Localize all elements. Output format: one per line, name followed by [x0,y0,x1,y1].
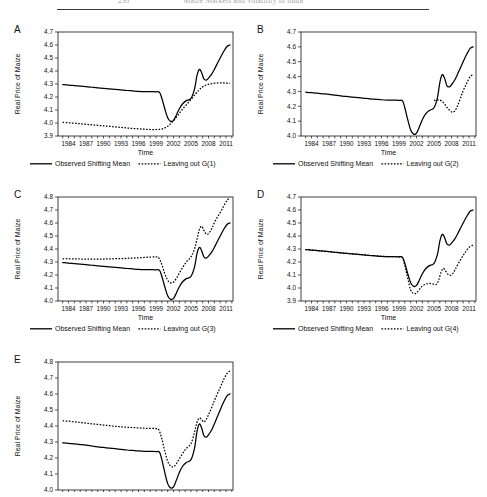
x-tick-label: 2005 [427,140,442,147]
y-tick-label: 4.5 [44,232,53,239]
x-axis-title: Time [138,314,153,321]
y-axis-title: Real Price of Maize [14,219,21,280]
y-axis-title: Real Price of Maize [14,396,21,457]
x-tick-label: 1993 [114,305,129,312]
series-line-1 [63,223,230,300]
chart-panel-e: E 4.04.14.24.34.44.54.64.74.8Real Price … [0,352,243,497]
series-line-1 [63,45,230,122]
legend-entry-2: Leaving out G(2) [382,160,459,168]
x-tick-label: 2008 [201,305,216,312]
legend-entry-1: Observed Shifting Mean [273,325,373,333]
x-tick-label: 1987 [79,140,94,147]
legend-label: Leaving out G(2) [407,160,459,168]
y-tick-label: 4.4 [44,422,53,429]
panel-a-svg: 3.94.04.14.24.34.44.54.64.71984198719901… [0,22,243,187]
y-tick-label: 4.3 [44,438,53,445]
x-tick-label: 1987 [79,305,94,312]
x-tick-label: 1993 [357,305,372,312]
x-tick-label: 2011 [462,140,476,147]
x-tick-label: 2005 [427,305,442,312]
legend-label: Leaving out G(4) [407,325,459,333]
legend-entry-1: Observed Shifting Mean [30,325,130,333]
chart-panel-b: B 4.04.14.24.34.44.54.64.719841987199019… [243,22,486,187]
series-group [63,371,230,488]
x-tick-label: 1999 [149,140,164,147]
x-tick-label: 1990 [339,140,354,147]
chart-panel-d: D 3.94.04.14.24.34.44.54.64.719841987199… [243,187,486,352]
x-tick-label: 1987 [322,140,337,147]
y-tick-label: 4.4 [287,232,296,239]
x-tick-label: 1996 [374,305,389,312]
series-line-1 [306,47,473,134]
legend-label: Observed Shifting Mean [298,160,373,168]
y-tick-label: 4.4 [44,67,53,74]
y-tick-label: 4.6 [287,206,296,213]
y-tick-label: 4.7 [287,193,296,200]
x-tick-label: 1993 [114,140,129,147]
panel-c-svg: 4.04.14.24.34.44.54.64.74.81984198719901… [0,187,243,352]
panel-d-svg: 3.94.04.14.24.34.44.54.64.71984198719901… [243,187,486,352]
figure-page: 236 Maize Markets and Volatility in Indi… [0,0,487,497]
y-tick-label: 4.4 [44,245,53,252]
legend-entry-1: Observed Shifting Mean [30,160,130,168]
x-tick-label: 1984 [304,305,319,312]
y-axis-title: Real Price of Maize [14,54,21,115]
y-tick-label: 4.1 [44,106,53,113]
page-running-header: 236 Maize Markets and Volatility in Indi… [0,0,487,12]
x-tick-label: 1999 [392,140,407,147]
x-tick-label: 1996 [131,305,146,312]
legend-label: Observed Shifting Mean [55,160,130,168]
y-tick-label: 4.6 [44,390,53,397]
y-tick-label: 4.3 [44,258,53,265]
y-tick-label: 4.0 [44,297,53,304]
y-tick-label: 4.0 [44,119,53,126]
x-tick-label: 1990 [339,305,354,312]
y-tick-label: 4.7 [44,206,53,213]
y-tick-label: 4.6 [287,43,296,50]
x-tick-label: 1984 [304,140,319,147]
x-tick-label: 1996 [374,140,389,147]
y-tick-label: 4.6 [44,219,53,226]
series-group [306,47,473,134]
plot-frame [58,197,233,301]
y-tick-label: 3.9 [44,132,53,139]
x-tick-label: 1987 [322,305,337,312]
y-tick-label: 4.2 [44,454,53,461]
x-tick-label: 2011 [462,305,476,312]
y-tick-label: 4.8 [44,193,53,200]
panel-grid: A 3.94.04.14.24.34.44.54.64.719841987199… [0,22,487,497]
panel-row-3: E 4.04.14.24.34.44.54.64.74.8Real Price … [0,352,487,497]
y-tick-label: 3.9 [287,297,296,304]
legend-entry-2: Leaving out G(1) [139,160,216,168]
x-axis-title: Time [381,314,396,321]
y-tick-label: 4.3 [287,88,296,95]
x-tick-label: 1984 [61,140,76,147]
x-tick-label: 1990 [96,305,111,312]
y-axis-title: Real Price of Maize [257,54,264,115]
series-line-2 [63,371,230,467]
y-tick-label: 4.3 [287,245,296,252]
x-tick-label: 1999 [392,305,407,312]
y-tick-label: 4.3 [44,80,53,87]
y-tick-label: 4.7 [44,28,53,35]
y-tick-label: 4.8 [44,358,53,365]
panel-row-1: A 3.94.04.14.24.34.44.54.64.719841987199… [0,22,487,187]
y-tick-label: 4.1 [287,271,296,278]
panel-e-svg: 4.04.14.24.34.44.54.64.74.8Real Price of… [0,352,243,492]
x-tick-label: 2008 [201,140,216,147]
x-tick-label: 1990 [96,140,111,147]
panel-row-2: C 4.04.14.24.34.44.54.64.74.819841987199… [0,187,487,352]
legend-label: Leaving out G(3) [164,325,216,333]
y-tick-label: 4.7 [287,28,296,35]
plot-frame [301,197,476,301]
series-line-2 [306,245,473,294]
x-tick-label: 2005 [184,305,199,312]
y-tick-label: 4.2 [44,93,53,100]
y-tick-label: 4.5 [287,58,296,65]
legend-entry-2: Leaving out G(3) [139,325,216,333]
series-group [63,45,230,130]
x-tick-label: 2008 [444,305,459,312]
x-tick-label: 2002 [166,305,181,312]
x-tick-label: 1999 [149,305,164,312]
x-tick-label: 2002 [166,140,181,147]
